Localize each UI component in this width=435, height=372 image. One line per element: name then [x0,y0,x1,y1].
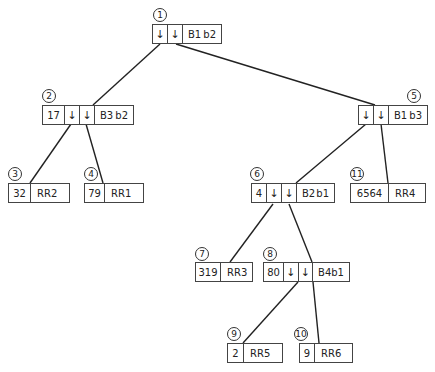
node-9: 2 RR5 [227,343,283,363]
node-10: 9 RR6 [299,343,353,363]
node-number-5: 5 [407,89,421,103]
node-5: ↓ ↓ B1b3 [358,105,428,125]
record-ref: RR1 [105,184,143,202]
block-id: B4 [318,267,331,278]
node-number-11: 11 [350,167,364,181]
key-value: 2 [228,344,244,362]
block-tag: b1 [331,267,344,278]
pointer-down-icon: ↓ [153,25,168,43]
block-label: B2b1 [297,184,334,202]
key-value: 32 [9,184,31,202]
record-ref: RR6 [315,344,352,362]
node-1: ↓ ↓ B1b2 [152,24,222,44]
node-4: 79 RR1 [84,183,144,203]
record-ref: RR2 [31,184,69,202]
pointer-down-icon: ↓ [299,263,314,281]
node-6: 4 ↓ ↓ B2b1 [251,183,335,203]
pointer-down-icon: ↓ [65,106,80,124]
node-3: 32 RR2 [8,183,70,203]
node-7: 319 RR3 [195,262,253,282]
node-2: 17 ↓ ↓ B3b2 [42,105,134,125]
block-tag: b1 [316,188,329,199]
node-number-1: 1 [153,8,167,22]
record-ref: RR5 [244,344,282,362]
block-id: B1 [188,29,201,40]
pointer-down-icon: ↓ [282,184,297,202]
key-value: 6564 [351,184,389,202]
block-label: B3b2 [95,106,133,124]
pointer-down-icon: ↓ [168,25,183,43]
key-value: 17 [43,106,65,124]
block-label: B1b3 [389,106,427,124]
node-number-2: 2 [42,89,56,103]
block-id: B3 [100,110,113,121]
block-id: B1 [394,110,407,121]
key-value: 79 [85,184,105,202]
node-number-7: 7 [195,247,209,261]
node-number-6: 6 [250,167,264,181]
key-value: 9 [300,344,315,362]
block-label: B1b2 [183,25,221,43]
key-value: 319 [196,263,221,281]
key-value: 4 [252,184,267,202]
block-label: B4b1 [313,263,349,281]
node-number-9: 9 [227,327,241,341]
record-ref: RR4 [389,184,425,202]
pointer-down-icon: ↓ [80,106,95,124]
block-tag: b2 [115,110,128,121]
pointer-down-icon: ↓ [359,106,374,124]
node-11: 6564 RR4 [350,183,426,203]
node-number-10: 10 [294,327,308,341]
key-value: 80 [264,263,284,281]
block-tag: b2 [203,29,216,40]
node-number-8: 8 [263,247,277,261]
node-8: 80 ↓ ↓ B4b1 [263,262,350,282]
node-number-4: 4 [84,167,98,181]
pointer-down-icon: ↓ [374,106,389,124]
pointer-down-icon: ↓ [284,263,299,281]
block-tag: b3 [409,110,422,121]
pointer-down-icon: ↓ [267,184,282,202]
tree-diagram: 1 ↓ ↓ B1b2 2 17 ↓ ↓ B3b2 3 32 RR2 4 79 R… [0,0,435,372]
node-number-3: 3 [8,167,22,181]
record-ref: RR3 [221,263,253,281]
block-id: B2 [302,188,315,199]
